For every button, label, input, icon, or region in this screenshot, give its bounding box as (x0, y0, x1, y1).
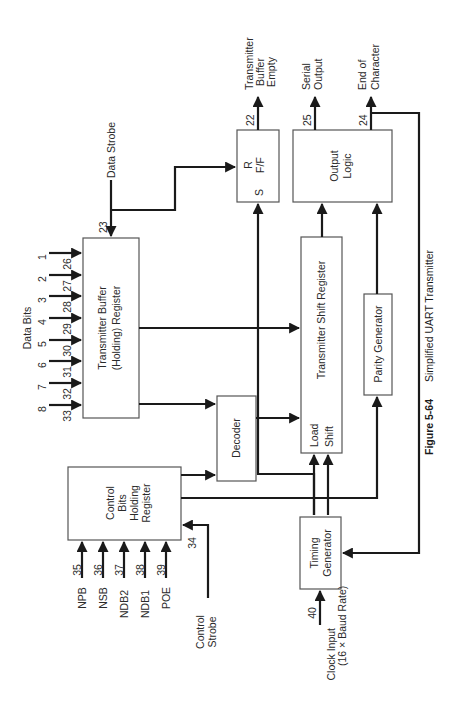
serial-output: 25 Serial Output (300, 58, 324, 130)
clock-input: 40 Clock Input (16 × Baud Rate) (306, 586, 348, 681)
ndb1-label: NDB1 (139, 590, 151, 618)
output-logic-line1: Output (328, 150, 340, 182)
data-bit-5: 5 (36, 341, 48, 347)
timing-line2: Generator (321, 529, 333, 577)
pin-28: 28 (61, 301, 73, 313)
control-strobe-input: 34 Control Strobe (183, 525, 218, 649)
pin-23: 23 (97, 221, 109, 233)
nsb-label: NSB (97, 587, 109, 609)
cbhr-label-line2: Bits (116, 494, 128, 512)
timing-line1: Timing (308, 537, 320, 568)
ff-s-label: S (253, 189, 265, 196)
tsr-shift-label: Shift (323, 426, 335, 447)
cbhr-label-line1: Control (104, 486, 116, 520)
pin-25: 25 (301, 114, 313, 126)
data-bit-6: 6 (36, 362, 48, 368)
cbhr-label-line4: Register (140, 483, 152, 523)
pin-32: 32 (61, 388, 73, 400)
cbhr-to-parity-wire (181, 397, 377, 498)
rs-flip-flop-block: R F/F S (237, 130, 279, 202)
tbe-label-line3: Empty (265, 56, 277, 87)
pin-40: 40 (306, 607, 318, 619)
pin-31: 31 (61, 366, 73, 378)
tsr-load-label: Load (308, 423, 320, 447)
pin-30: 30 (61, 345, 73, 357)
data-bits-label: Data Bits (21, 307, 33, 350)
data-bit-2: 2 (36, 276, 48, 282)
ff-r-label: R (242, 161, 254, 169)
output-logic-block: Output Logic (293, 130, 392, 202)
control-bits-holding-register-block: Control Bits Holding Register (68, 467, 181, 540)
npb-label: NPB (76, 587, 88, 609)
parity-label: Parity Generator (372, 305, 384, 383)
pin-34: 34 (186, 537, 198, 549)
tbr-label-line1: Transmitter Buffer (96, 286, 108, 370)
figure-title: Simplified UART Transmitter (423, 249, 435, 382)
ff-label: F/F (254, 157, 266, 173)
pin-22: 22 (244, 114, 256, 126)
data-bit-3: 3 (36, 297, 48, 303)
transmitter-buffer-empty-output: 22 Transmitter Buffer Empty (243, 37, 277, 130)
output-logic-line2: Logic (341, 153, 353, 178)
pin-29: 29 (61, 323, 73, 335)
data-strobe-wire: Data Strobe 23 (97, 122, 235, 236)
pin-33: 33 (61, 410, 73, 422)
figure-number: Figure 5-64 (423, 399, 435, 455)
pin-37: 37 (113, 564, 125, 576)
decoder-block: Decoder (217, 396, 256, 481)
control-inputs: 35 36 37 38 39 NPB NSB NDB2 NDB1 POE (71, 542, 172, 618)
clock-input-line2: (16 × Baud Rate) (336, 586, 348, 666)
transmitter-buffer-register-block: Transmitter Buffer (Holding) Register (83, 238, 139, 418)
serial-output-line1: Serial (300, 63, 312, 90)
figure-caption: Figure 5-64 Simplified UART Transmitter (423, 249, 435, 455)
serial-output-line2: Output (312, 58, 324, 90)
pin-38: 38 (134, 564, 146, 576)
tsr-label: Transmitter Shift Register (315, 260, 327, 379)
control-strobe-line2: Strobe (206, 616, 218, 647)
pin-35: 35 (71, 564, 83, 576)
pin-27: 27 (61, 280, 73, 292)
poe-label: POE (160, 587, 172, 609)
data-strobe-label: Data Strobe (105, 122, 117, 178)
uart-transmitter-diagram: Transmitter Buffer (Holding) Register De… (0, 0, 459, 702)
data-bits-inputs: Data Bits 1 2 3 4 5 6 7 8 26 27 28 29 30… (21, 253, 81, 422)
end-of-char-line1: End of (356, 60, 368, 90)
parity-generator-block: Parity Generator (364, 294, 392, 395)
pin-39: 39 (155, 564, 167, 576)
pin-36: 36 (92, 564, 104, 576)
tbr-label-line2: (Holding) Register (110, 285, 122, 370)
control-strobe-line1: Control (194, 615, 206, 649)
transmitter-shift-register-block: Transmitter Shift Register Load Shift (301, 237, 342, 453)
pin-26: 26 (61, 258, 73, 270)
end-of-char-line2: Character (369, 43, 381, 90)
data-bit-4: 4 (36, 319, 48, 325)
data-bit-7: 7 (36, 384, 48, 390)
pin-24: 24 (357, 114, 369, 126)
data-bit-1: 1 (36, 254, 48, 260)
cbhr-label-line3: Holding (128, 485, 140, 521)
data-bit-8: 8 (36, 406, 48, 412)
decoder-label: Decoder (230, 418, 242, 458)
ndb2-label: NDB2 (118, 590, 130, 618)
timing-generator-block: Timing Generator (300, 517, 341, 589)
